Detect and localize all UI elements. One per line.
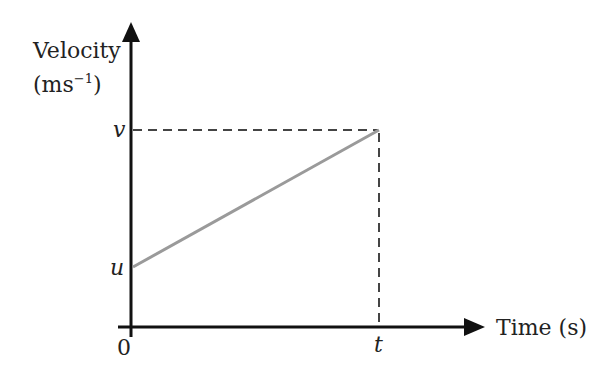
y-axis-label-line2: (ms−1) <box>33 71 102 97</box>
y-tick-u: u <box>110 255 124 280</box>
y-axis-arrow-icon <box>122 22 140 42</box>
origin-label: 0 <box>117 335 131 360</box>
y-tick-v: v <box>113 117 126 142</box>
x-axis-arrow-icon <box>464 318 485 336</box>
guide-lines <box>133 130 379 325</box>
velocity-time-diagram: Velocity (ms−1) v u 0 t Time (s) <box>0 0 605 373</box>
velocity-line <box>133 130 379 267</box>
y-axis <box>122 22 140 337</box>
x-axis <box>118 318 485 336</box>
x-tick-t: t <box>374 332 383 357</box>
y-axis-label-line1: Velocity <box>32 38 121 63</box>
x-axis-label: Time (s) <box>496 315 587 340</box>
